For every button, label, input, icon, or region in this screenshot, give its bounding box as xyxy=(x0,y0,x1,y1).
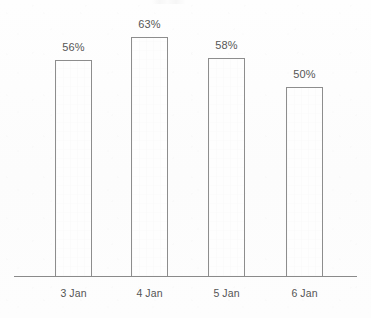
plot-area: 56% 3 Jan 63% 4 Jan 58% 5 Jan 50% 6 Jan xyxy=(0,0,371,318)
bar-6-jan[interactable] xyxy=(286,87,323,276)
value-label-5-jan: 58% xyxy=(188,39,265,52)
bar-fill-texture xyxy=(209,59,244,276)
bar-5-jan[interactable] xyxy=(208,58,245,276)
value-label-6-jan: 50% xyxy=(266,68,343,81)
category-label-4-jan: 4 Jan xyxy=(111,287,188,300)
bar-fill-texture xyxy=(132,38,167,276)
category-label-3-jan: 3 Jan xyxy=(35,287,112,300)
bar-fill-texture xyxy=(56,61,91,276)
value-label-3-jan: 56% xyxy=(35,41,112,54)
bar-fill-texture xyxy=(287,88,322,276)
x-axis-baseline xyxy=(14,276,357,277)
bar-3-jan[interactable] xyxy=(55,60,92,276)
bar-4-jan[interactable] xyxy=(131,37,168,276)
category-label-6-jan: 6 Jan xyxy=(266,287,343,300)
category-label-5-jan: 5 Jan xyxy=(188,287,265,300)
value-label-4-jan: 63% xyxy=(111,18,188,31)
bar-chart: 56% 3 Jan 63% 4 Jan 58% 5 Jan 50% 6 Jan xyxy=(0,0,371,318)
